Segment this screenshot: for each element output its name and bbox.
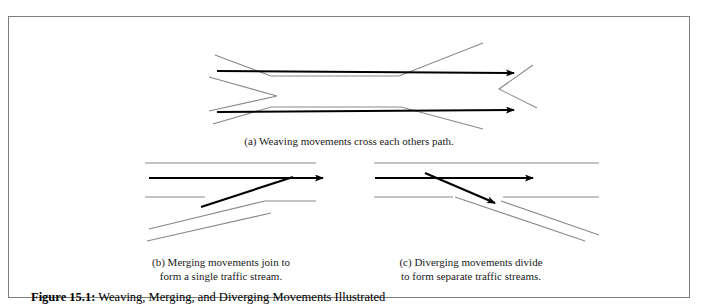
merging-movements [149,177,323,207]
panel-weaving [209,43,537,129]
figure-container: (a) Weaving movements cross each others … [0,0,721,307]
lane-line-upper-gore-wedge [209,77,277,111]
merging-ramp-arrow [201,177,293,207]
diverging-lane-lines [374,163,599,241]
figure-caption: Figure 15.1: Weaving, Merging, and Diver… [31,289,671,305]
lane-line-right-gore-wedge [499,65,537,108]
lane-line-merge-taper [149,201,316,229]
merging-lane-lines [145,163,316,241]
panel-merging [145,163,323,241]
panel-caption-diverging: (c) Diverging movements divide to form s… [341,256,601,283]
panel-caption-weaving: (a) Weaving movements cross each others … [129,135,569,149]
figure-frame: (a) Weaving movements cross each others … [8,16,690,298]
diverging-movements [375,173,533,203]
lane-line-diverge-taper [455,197,585,241]
panel-diverging [374,163,599,241]
lane-line-ramp-outer [147,213,271,241]
weaving-lane-lines [209,43,537,129]
panel-caption-merging: (b) Merging movements join to form a sin… [101,256,341,283]
figure-caption-label: Figure 15.1: [31,290,95,304]
figure-caption-title: Weaving, Merging, and Diverging Movement… [98,290,385,304]
